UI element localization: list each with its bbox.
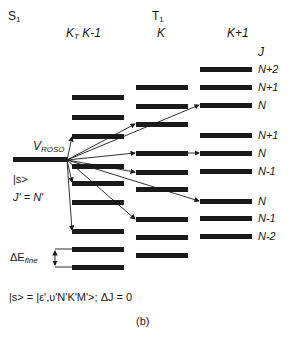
- delta-e-bracket: [55, 249, 72, 267]
- j-label: N+1: [258, 130, 279, 141]
- right-column-header: K+1: [227, 27, 249, 39]
- left-column-levels: [72, 95, 124, 270]
- j-label: N: [258, 100, 266, 111]
- v-roso-label: VROSO: [33, 140, 65, 154]
- t1-header: T1: [152, 10, 164, 24]
- energy-level-diagram: [0, 0, 289, 337]
- left-column-header: KT K-1: [66, 27, 101, 41]
- j-prime-label: J' = N': [13, 192, 43, 203]
- j-label: N-2: [258, 231, 276, 242]
- state-equation: |s> = |ε',υ'N'K'M'>; ΔJ = 0: [9, 292, 132, 303]
- j-label: N: [258, 196, 266, 207]
- j-label: N+1: [258, 82, 279, 93]
- s1-level: [13, 157, 68, 162]
- j-label: N: [258, 148, 266, 159]
- right-column-levels: [200, 67, 252, 239]
- delta-e-fine-label: ΔEfine: [10, 252, 38, 265]
- j-label: N-1: [258, 213, 276, 224]
- middle-column-header: K: [157, 27, 165, 39]
- s1-header: S1: [8, 10, 20, 24]
- j-label: N-1: [258, 166, 276, 177]
- j-label: N+2: [258, 64, 279, 75]
- j-header: J: [258, 46, 264, 58]
- ket-s-label: |s>: [13, 174, 28, 185]
- figure-caption: (b): [136, 316, 149, 327]
- middle-column-levels: [136, 85, 188, 258]
